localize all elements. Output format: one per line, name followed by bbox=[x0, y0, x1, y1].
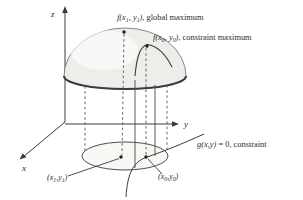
label-point-x1y1: (x1,y1) bbox=[47, 173, 68, 183]
z-axis-label: z bbox=[50, 9, 55, 19]
base-dot-x1y1 bbox=[119, 155, 122, 158]
diagram-canvas: f(x1, y1), global maximum f(x0, y0), con… bbox=[0, 0, 303, 200]
figure-constrained-optimization: f(x1, y1), global maximum f(x0, y0), con… bbox=[0, 0, 303, 200]
y-axis-label: y bbox=[183, 119, 188, 129]
constraint-max-dot bbox=[145, 44, 148, 47]
y-axis-arrow-icon bbox=[172, 121, 179, 127]
x-axis bbox=[23, 122, 65, 157]
z-axis-arrow-icon bbox=[62, 6, 68, 13]
label-global-maximum: f(x1, y1), global maximum bbox=[117, 13, 204, 23]
base-dot-x0y0 bbox=[144, 155, 147, 158]
label-point-x0y0: (x0,y0) bbox=[158, 172, 179, 182]
global-max-math: f(x bbox=[117, 13, 126, 22]
x-axis-arrow-icon bbox=[20, 153, 27, 159]
label-constraint-maximum: f(x0, y0), constraint maximum bbox=[153, 33, 252, 43]
dome-highlight bbox=[70, 30, 138, 70]
label-constraint-equation: g(x,y) = 0, constraint bbox=[197, 140, 267, 149]
x-axis-label: x bbox=[21, 163, 26, 173]
global-max-dot bbox=[122, 30, 125, 33]
constraint-eq-math: g(x,y) bbox=[197, 140, 217, 149]
constraint-max-math: f(x bbox=[153, 33, 162, 42]
